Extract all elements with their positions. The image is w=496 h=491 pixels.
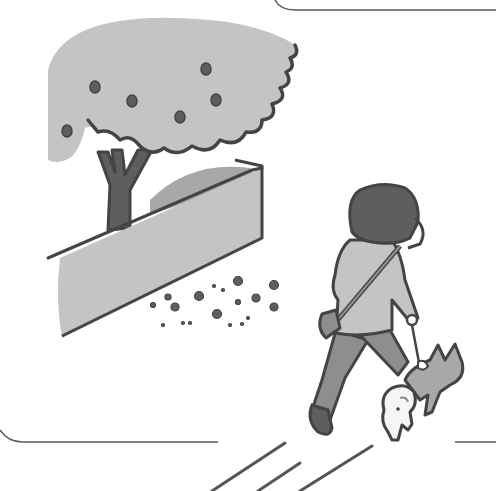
hair xyxy=(350,184,418,243)
dog-tail xyxy=(383,386,416,440)
panel-frame-top xyxy=(275,0,496,10)
shoe xyxy=(310,405,332,434)
path-lines xyxy=(212,443,372,491)
wall xyxy=(48,160,262,338)
illustration xyxy=(0,0,496,491)
panel-frame-bottom xyxy=(0,430,218,442)
hand xyxy=(407,315,417,325)
tree-canopy xyxy=(48,18,297,162)
dog-collar xyxy=(418,361,428,370)
